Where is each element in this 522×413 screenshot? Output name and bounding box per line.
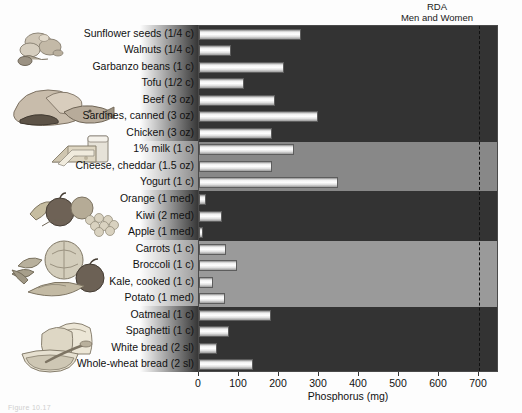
bar bbox=[199, 211, 222, 222]
phosphorus-content-figure: RDA Men and Women bbox=[0, 0, 522, 413]
x-axis-title: Phosphorus (mg) bbox=[198, 390, 498, 402]
plot-area bbox=[198, 25, 498, 372]
bar bbox=[199, 128, 272, 139]
bar bbox=[199, 78, 244, 89]
background-band bbox=[199, 191, 497, 241]
y-axis-label: Carrots (1 c) bbox=[136, 242, 194, 255]
x-axis-tick bbox=[478, 372, 479, 376]
x-axis-tick bbox=[238, 372, 239, 376]
y-axis-label: Kiwi (2 med) bbox=[136, 209, 194, 222]
bar bbox=[199, 194, 206, 205]
y-axis-label: Orange (1 med) bbox=[120, 192, 194, 205]
y-axis-label: Sardines, canned (3 oz) bbox=[83, 109, 194, 122]
x-axis-tick bbox=[438, 372, 439, 376]
y-axis-label: Broccoli (1 c) bbox=[133, 258, 194, 271]
bar bbox=[199, 326, 229, 337]
y-axis-labels: Sunflower seeds (1/4 c)Walnuts (1/4 c)Ga… bbox=[0, 25, 196, 372]
x-axis-tick-label: 0 bbox=[178, 377, 218, 389]
x-axis-tick bbox=[318, 372, 319, 376]
x-axis-tick-label: 200 bbox=[258, 377, 298, 389]
bar bbox=[199, 177, 338, 188]
x-axis-tick-label: 600 bbox=[418, 377, 458, 389]
y-axis-label: Tofu (1/2 c) bbox=[141, 76, 194, 89]
bar bbox=[199, 111, 318, 122]
bar bbox=[199, 227, 203, 238]
y-axis-label: Apple (1 med) bbox=[128, 225, 194, 238]
y-axis-label: Cheese, cheddar (1.5 oz) bbox=[76, 159, 194, 172]
bar bbox=[199, 45, 231, 56]
x-axis-tick bbox=[198, 372, 199, 376]
bar bbox=[199, 62, 284, 73]
x-axis-tick-label: 700 bbox=[458, 377, 498, 389]
y-axis-label: 1% milk (1 c) bbox=[133, 142, 194, 155]
y-axis-label: Kale, cooked (1 c) bbox=[109, 275, 194, 288]
bar bbox=[199, 310, 271, 321]
y-axis-label: Walnuts (1/4 c) bbox=[124, 43, 194, 56]
y-axis-label: Yogurt (1 c) bbox=[140, 175, 194, 188]
bar bbox=[199, 95, 275, 106]
x-axis-tick-label: 500 bbox=[378, 377, 418, 389]
bar bbox=[199, 359, 253, 370]
bar bbox=[199, 343, 217, 354]
bar bbox=[199, 260, 237, 271]
y-axis-label: Spaghetti (1 c) bbox=[126, 324, 194, 337]
x-axis-tick bbox=[358, 372, 359, 376]
x-axis-tick-label: 100 bbox=[218, 377, 258, 389]
rda-label-line1: RDA bbox=[362, 1, 512, 12]
x-axis-tick-label: 400 bbox=[338, 377, 378, 389]
x-axis-tick bbox=[398, 372, 399, 376]
bar bbox=[199, 29, 301, 40]
background-band bbox=[199, 241, 497, 307]
rda-reference-line bbox=[479, 26, 480, 371]
y-axis-label: Sunflower seeds (1/4 c) bbox=[84, 27, 194, 40]
rda-annotation: RDA Men and Women bbox=[362, 1, 512, 23]
bar bbox=[199, 277, 213, 288]
x-axis-tick-label: 300 bbox=[298, 377, 338, 389]
y-axis-label: Garbanzo beans (1 c) bbox=[92, 60, 194, 73]
y-axis-label: Potato (1 med) bbox=[125, 291, 194, 304]
bar bbox=[199, 244, 226, 255]
figure-caption: Figure 10.17 bbox=[8, 404, 51, 411]
bar bbox=[199, 161, 272, 172]
bar bbox=[199, 293, 225, 304]
y-axis-label: Chicken (3 oz) bbox=[126, 126, 194, 139]
rda-label-line2: Men and Women bbox=[362, 12, 512, 23]
bar bbox=[199, 144, 294, 155]
y-axis-label: Oatmeal (1 c) bbox=[130, 308, 194, 321]
y-axis-label: Whole-wheat bread (2 sl) bbox=[77, 357, 194, 370]
y-axis-label: White bread (2 sl) bbox=[111, 341, 194, 354]
y-axis-label: Beef (3 oz) bbox=[143, 93, 194, 106]
x-axis-tick bbox=[278, 372, 279, 376]
